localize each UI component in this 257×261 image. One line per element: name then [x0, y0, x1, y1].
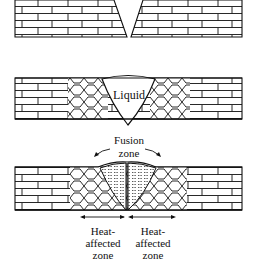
haz-arrow-left	[80, 215, 125, 219]
haz-arrow-right	[128, 215, 176, 219]
welding-diagram	[0, 0, 257, 261]
haz-right-label-line3: zone	[130, 249, 176, 261]
stage-solidified-weld	[15, 149, 242, 219]
liquid-label: Liquid	[108, 89, 150, 101]
haz-left-label-line1: Heat-	[80, 225, 126, 237]
fusion-zone-label-line2: zone	[108, 147, 150, 159]
haz-right-label-line2: affected	[130, 237, 176, 249]
haz-left-label-line3: zone	[80, 249, 126, 261]
haz-left-label-line2: affected	[80, 237, 126, 249]
haz-right-label-line1: Heat-	[130, 225, 176, 237]
stage-joint-preparation	[15, 0, 242, 37]
fusion-zone-label-line1: Fusion	[108, 134, 150, 146]
